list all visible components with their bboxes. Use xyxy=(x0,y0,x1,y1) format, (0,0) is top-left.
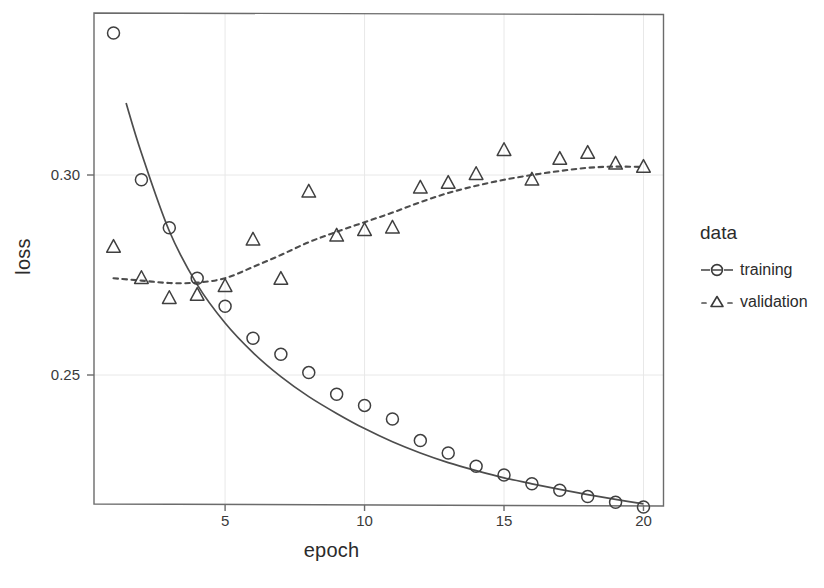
training-data-point xyxy=(331,388,343,400)
legend-item-training[interactable]: training xyxy=(700,255,824,285)
y-tick-label: 0.30 xyxy=(32,166,80,182)
training-data-point xyxy=(108,27,120,39)
training-data-point xyxy=(442,447,454,459)
validation-trend-line xyxy=(114,167,644,284)
validation-points xyxy=(107,143,651,304)
x-tick-label: 10 xyxy=(345,512,385,529)
legend-item-validation[interactable]: validation xyxy=(700,287,824,317)
validation-data-point xyxy=(386,220,400,233)
validation-data-point xyxy=(246,232,260,245)
training-legend-key xyxy=(700,259,734,281)
y-tick-label: 0.25 xyxy=(32,366,80,382)
training-data-point xyxy=(386,413,398,425)
validation-data-point xyxy=(469,167,483,180)
legend: data training validation xyxy=(700,222,824,319)
gridlines xyxy=(94,13,663,505)
training-data-point xyxy=(414,435,426,447)
validation-data-point xyxy=(441,176,455,189)
validation-data-point xyxy=(581,146,595,159)
training-data-point xyxy=(303,367,315,379)
x-tick-label: 20 xyxy=(623,512,663,529)
training-data-point xyxy=(135,174,147,186)
x-tick-label: 5 xyxy=(205,512,245,529)
legend-title: data xyxy=(700,222,824,244)
validation-legend-key xyxy=(700,291,734,313)
training-data-point xyxy=(275,348,287,360)
legend-label-validation: validation xyxy=(740,293,808,311)
validation-data-point xyxy=(302,184,316,197)
validation-data-point xyxy=(553,152,567,165)
x-axis-label: epoch xyxy=(0,539,663,562)
chart-figure: epoch loss 5101520 0.250.30 data trainin… xyxy=(0,0,824,588)
validation-data-point xyxy=(107,240,121,253)
x-tick-label: 15 xyxy=(484,512,524,529)
validation-data-point xyxy=(163,291,177,304)
validation-data-point xyxy=(274,272,288,285)
training-data-point xyxy=(582,491,594,503)
validation-data-point xyxy=(190,288,204,301)
training-data-point xyxy=(247,332,259,344)
legend-label-training: training xyxy=(740,261,792,279)
y-axis-label: loss xyxy=(12,217,35,297)
plot-frame xyxy=(94,13,664,506)
validation-data-point xyxy=(414,180,428,193)
